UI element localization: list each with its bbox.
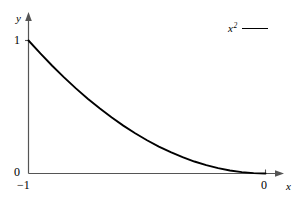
y-tick-label-1: 1 [14, 34, 20, 46]
y-axis-label: y [16, 13, 21, 24]
legend-exponent: 2 [233, 21, 237, 30]
x-tick-label-0: 0 [261, 179, 267, 191]
x-tick-label-neg1: −1 [17, 179, 30, 191]
x-axis-label: x [286, 181, 291, 192]
curve-x-squared [29, 41, 266, 174]
figure-canvas: y x 1 0 −1 0 x2 [0, 0, 298, 207]
legend-entry-label: x2 [228, 22, 237, 34]
y-tick-label-0: 0 [14, 166, 20, 178]
legend-line-swatch [242, 28, 268, 29]
legend: x2 [228, 22, 268, 34]
y-axis [25, 12, 32, 174]
